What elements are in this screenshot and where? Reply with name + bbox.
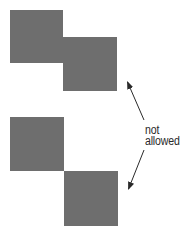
- arrow-up-icon: [128, 82, 145, 120]
- diagram-canvas: not allowed: [0, 0, 195, 236]
- arrows-layer: [0, 0, 195, 236]
- annotation-line-2: allowed: [145, 136, 180, 147]
- arrow-down-icon: [129, 150, 145, 189]
